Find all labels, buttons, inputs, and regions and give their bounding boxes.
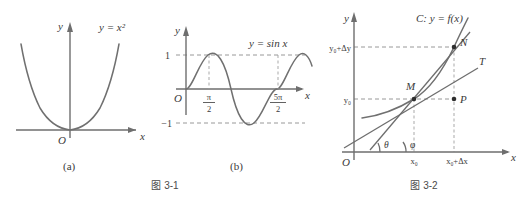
panel-b-curve-label: y = sin x [248,37,287,49]
x-axis-label: x [510,151,516,163]
panel-a-origin-label: O [58,134,66,146]
figure-3-2-caption: 图 3-2 [410,180,438,191]
figure-3-1: y x O y = x² (a) y x O 1 [0,0,320,202]
point-p-label: P [459,93,467,105]
secant-line-mn [370,32,470,150]
angle-theta-arc [378,143,380,152]
point-p-dot [452,97,457,102]
angle-phi-label: φ [410,140,415,150]
panel-b-xtick-5pi-over-2-numerator: 5π [274,92,283,102]
panel-b-xtick-5pi-over-2-denominator: 2 [276,104,280,114]
xtick-x0: x₀ [410,156,417,166]
panel-b-xtick-pi-over-2-denominator: 2 [207,104,211,114]
y-axis-arrowhead [351,12,357,22]
point-m-dot [412,97,417,102]
panel-b-origin-label: O [174,92,182,104]
panel-a-y-axis-label: y [57,20,63,32]
panel-b-y-arrowhead [183,26,189,36]
panel-b-y-axis-label: y [174,24,180,36]
angle-theta-label: θ [384,140,389,150]
panel-b-tag: (b) [230,160,243,173]
figure-3-1-caption: 图 3-1 [151,180,179,191]
panel-a-curve-label: y = x² [98,21,126,33]
point-n-label: N [459,36,468,48]
ytick-y0: y₀ [344,95,351,105]
x-axis-arrowhead [502,149,510,155]
figure-3-2: M N P T θ φ y x O y₀+Δy y₀ x₀ x₀+Δx C: y… [318,0,531,202]
panel-b-ytick-one: 1 [165,50,170,61]
tangent-label: T [479,55,486,67]
point-n-dot [452,45,457,50]
xtick-x0-plus-dx: x₀+Δx [446,156,468,166]
panel-b-xtick-pi-over-2: π 2 [203,92,215,114]
panel-b-xtick-5pi-over-2: 5π 2 [270,92,286,114]
angle-phi-arc [403,142,406,152]
point-m-label: M [405,80,416,92]
panel-a: y x O y = x² (a) [16,20,145,173]
panel-a-y-arrowhead [67,22,73,32]
curve-label: C: y = f(x) [416,12,463,25]
panel-b-x-arrowhead [296,86,304,92]
ytick-y0-plus-dy: y₀+Δy [329,43,351,53]
panel-b-xtick-pi-over-2-numerator: π [207,92,212,102]
origin-label: O [342,156,350,168]
function-curve [362,18,468,118]
panel-b: y x O 1 −1 π 2 5π 2 y = sin x (b) [161,24,312,173]
panel-a-tag: (a) [63,160,76,173]
y-axis-label: y [343,12,349,24]
panel-a-x-axis-label: x [139,130,145,142]
panel-b-x-axis-label: x [304,89,310,101]
panel-a-x-arrowhead [128,127,136,133]
figure-root: y x O y = x² (a) y x O 1 [0,0,531,202]
panel-b-ytick-minus-one: −1 [161,118,172,129]
